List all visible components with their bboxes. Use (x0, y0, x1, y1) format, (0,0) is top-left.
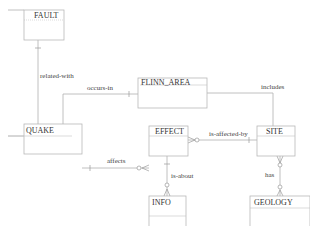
entity-fault[interactable]: FAULT (24, 10, 64, 40)
relationship-label: is-about (171, 172, 194, 180)
entity-site[interactable]: SITE (257, 126, 295, 156)
entity-label: EFFECT (155, 127, 184, 136)
relationship-is-about[interactable]: is-about (164, 156, 194, 196)
entity-effect[interactable]: EFFECT (149, 126, 188, 156)
entity-info[interactable]: INFO (149, 196, 186, 226)
entity-geology[interactable]: GEOLOGY (250, 196, 310, 226)
zero-circle-icon (278, 185, 282, 189)
entity-label: SITE (266, 127, 283, 136)
entity-label: FLINN_AREA (141, 78, 191, 87)
relationship-label: related-with (40, 72, 74, 80)
relationship-label: includes (261, 83, 285, 91)
zero-circle-icon (278, 163, 282, 167)
er-diagram: related-with occurs-in includes affects … (0, 0, 310, 226)
entity-label: GEOLOGY (254, 198, 293, 207)
entity-label: FAULT (34, 11, 59, 20)
relationship-label: occurs-in (87, 84, 114, 92)
relationship-label: affects (107, 157, 126, 165)
entity-flinn-area[interactable]: FLINN_AREA (138, 78, 207, 108)
zero-circle-icon (137, 166, 141, 170)
entity-label: QUAKE (26, 126, 54, 135)
relationship-label: is-affected-by (209, 130, 248, 138)
zero-circle-icon (165, 183, 169, 187)
relationship-is-affected-by[interactable]: is-affected-by (188, 130, 257, 143)
relationship-has[interactable]: has (265, 156, 283, 196)
entity-label: INFO (152, 198, 171, 207)
relationship-affects[interactable]: affects (82, 157, 149, 171)
entity-quake[interactable]: QUAKE (8, 124, 82, 154)
relationship-label: has (265, 171, 275, 179)
